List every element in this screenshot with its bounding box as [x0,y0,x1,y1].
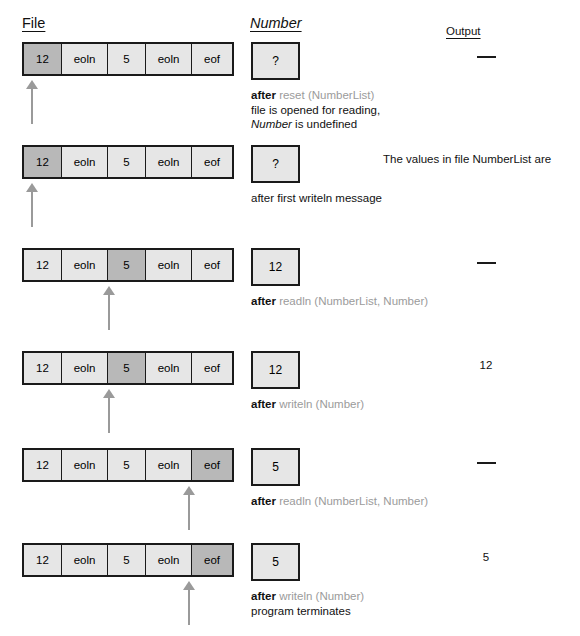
arrow-shaft-icon [108,395,110,433]
trace-row: 12eoln5eolneof?after reset (NumberList)f… [0,42,580,146]
caption-line: file is opened for reading, [251,103,471,118]
file-position-arrow-icon [103,389,115,433]
output-none-dash [446,50,526,62]
file-cell: eof [192,450,232,480]
arrow-shaft-icon [31,189,33,227]
file-cell: 12 [24,450,62,480]
caption-code: reset (NumberList) [279,89,374,101]
file-cell: 5 [108,545,146,575]
arrow-shaft-icon [188,587,190,625]
trace-row: 12eoln5eolneof5after readln (NumberList,… [0,448,580,552]
step-caption: after writeln (Number)program terminates [251,589,471,618]
file-cell: eof [192,250,232,280]
caption-code: writeln (Number) [279,590,364,602]
file-cell: 5 [108,353,146,383]
caption-variable-name: Number [251,118,292,130]
caption-line: after readln (NumberList, Number) [251,494,471,509]
step-caption: after readln (NumberList, Number) [251,294,471,309]
trace-row: 12eoln5eolneof12after readln (NumberList… [0,248,580,352]
file-position-arrow-icon [26,80,38,124]
dash-icon [477,462,496,464]
file-cell: eoln [62,353,108,383]
output-none-dash [446,256,526,268]
dash-icon [477,56,496,58]
caption-line: after readln (NumberList, Number) [251,294,471,309]
file-strip: 12eoln5eolneof [22,351,234,385]
caption-keyword: after [251,295,276,307]
column-heading-number: Number [250,14,302,32]
number-variable-box: ? [251,145,300,183]
output-value: 5 [446,551,526,563]
file-cell: 12 [24,353,62,383]
file-cell: eoln [146,353,192,383]
file-cell: eof [192,147,232,177]
file-position-arrow-icon [183,486,195,530]
file-cell: eoln [146,250,192,280]
caption-code: readln (NumberList, Number) [279,495,428,507]
output-none-dash [446,456,526,468]
arrow-shaft-icon [108,292,110,330]
output-message: The values in file NumberList are [383,153,551,165]
file-cell: 5 [108,147,146,177]
caption-line: Number is undefined [251,117,471,132]
file-cell: eof [192,545,232,575]
caption-line: after first writeln message [251,191,471,206]
caption-text: is undefined [292,118,357,130]
file-strip: 12eoln5eolneof [22,248,234,282]
file-position-arrow-icon [26,183,38,227]
caption-code: writeln (Number) [279,398,364,410]
arrow-shaft-icon [188,492,190,530]
caption-line: program terminates [251,604,471,619]
file-cell: eoln [62,44,108,74]
file-cell: eoln [146,545,192,575]
file-cell: 5 [108,250,146,280]
file-strip: 12eoln5eolneof [22,42,234,76]
file-cell: eoln [62,545,108,575]
number-variable-box: 5 [251,448,300,486]
trace-row: 12eoln5eolneof?after first writeln messa… [0,145,580,249]
file-cell: eoln [62,147,108,177]
file-strip: 12eoln5eolneof [22,543,234,577]
file-cell: 5 [108,44,146,74]
caption-line: after writeln (Number) [251,397,471,412]
file-cell: eoln [62,450,108,480]
number-variable-box: ? [251,42,300,80]
step-caption: after reset (NumberList)file is opened f… [251,88,471,132]
caption-keyword: after [251,590,276,602]
caption-line: after writeln (Number) [251,589,471,604]
step-caption: after first writeln message [251,191,471,206]
file-cell: eoln [146,44,192,74]
file-position-arrow-icon [103,286,115,330]
file-cell: 12 [24,147,62,177]
dash-icon [477,262,496,264]
file-cell: eof [192,44,232,74]
file-position-arrow-icon [183,581,195,625]
file-cell: 12 [24,545,62,575]
file-cell: eof [192,353,232,383]
file-cell: 12 [24,250,62,280]
number-variable-box: 12 [251,351,300,389]
column-heading-output: Output [446,22,481,40]
trace-row: 12eoln5eolneof5after writeln (Number)pro… [0,543,580,636]
caption-code: readln (NumberList, Number) [279,295,428,307]
caption-keyword: after [251,495,276,507]
file-cell: eoln [146,450,192,480]
caption-keyword: after [251,398,276,410]
column-headings: File Number Output [0,14,580,38]
output-value: 12 [446,359,526,371]
caption-keyword: after [251,89,276,101]
number-variable-box: 5 [251,543,300,581]
step-caption: after readln (NumberList, Number) [251,494,471,509]
column-heading-file: File [22,14,45,32]
file-cell: 5 [108,450,146,480]
arrow-shaft-icon [31,86,33,124]
trace-row: 12eoln5eolneof12after writeln (Number)12 [0,351,580,455]
caption-line: after reset (NumberList) [251,88,471,103]
number-variable-box: 12 [251,248,300,286]
file-cell: eoln [62,250,108,280]
file-strip: 12eoln5eolneof [22,145,234,179]
file-cell: eoln [146,147,192,177]
step-caption: after writeln (Number) [251,397,471,412]
file-strip: 12eoln5eolneof [22,448,234,482]
file-cell: 12 [24,44,62,74]
